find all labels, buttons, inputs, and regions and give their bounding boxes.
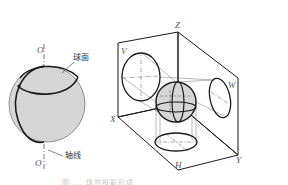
x-axis-label: X [110, 115, 116, 124]
y-axis-label: Y [236, 156, 241, 165]
v-plane-label: V [121, 47, 127, 56]
axis-top-label: O [37, 46, 44, 55]
w-plane-label: W [228, 81, 236, 90]
intersection-dot [18, 85, 21, 88]
axis-leader [48, 150, 63, 156]
h-plane-label: H [175, 161, 182, 170]
center-sphere [156, 82, 196, 122]
diagram-canvas [0, 0, 288, 185]
axis-bottom-label: O [35, 159, 42, 168]
z-axis-label: Z [175, 21, 180, 30]
axis-label: 轴线 [65, 152, 81, 160]
surface-leader [62, 62, 74, 73]
v-projection [122, 52, 160, 101]
h-projection [155, 133, 197, 151]
surface-label: 球面 [73, 54, 89, 62]
figure-caption: 图 ... 球的投影形成 [62, 177, 134, 185]
